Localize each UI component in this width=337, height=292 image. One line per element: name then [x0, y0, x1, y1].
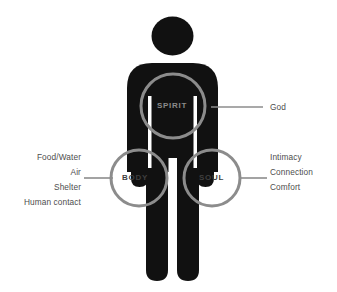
- callout-item: God: [270, 100, 286, 115]
- callout-body-needs: Food/Water Air Shelter Human contact: [0, 150, 81, 210]
- callout-spirit-needs: God: [270, 100, 286, 115]
- ring-label-soul: SOUL: [199, 173, 224, 182]
- ring-label-body: BODY: [122, 173, 148, 182]
- callout-soul-needs: Intimacy Connection Comfort: [270, 150, 337, 195]
- figure-left-arm-gap: [148, 96, 152, 168]
- callout-item: Food/Water: [0, 150, 81, 165]
- figure-leg-gap: [169, 158, 178, 282]
- diagram-canvas: SPIRIT BODY SOUL Food/Water Air Shelter …: [0, 0, 337, 292]
- callout-item: Air: [0, 165, 81, 180]
- callout-item: Comfort: [270, 180, 337, 195]
- ring-label-spirit: SPIRIT: [157, 101, 187, 110]
- callout-item: Shelter: [0, 180, 81, 195]
- callout-item: Human contact: [0, 195, 81, 210]
- callout-item: Intimacy: [270, 150, 337, 165]
- figure-head: [152, 17, 194, 56]
- human-figure-diagram: [0, 0, 337, 292]
- callout-item: Connection: [270, 165, 337, 180]
